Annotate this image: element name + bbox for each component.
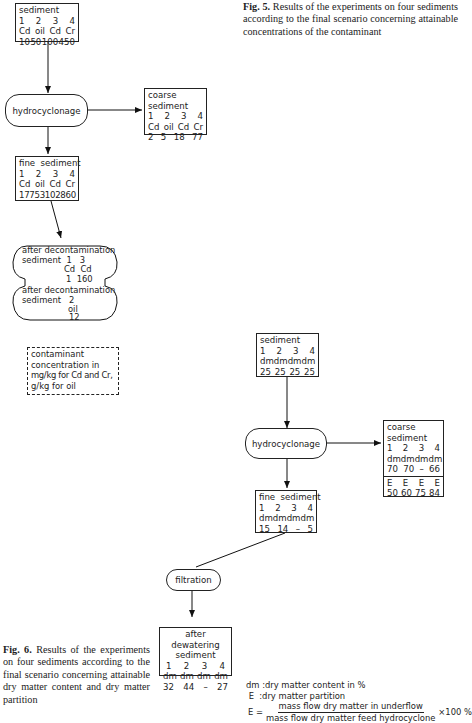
cell: dm — [163, 671, 177, 682]
decon-value: 12 — [22, 313, 115, 321]
cell: 32 — [163, 682, 174, 693]
box-title: sediment — [148, 101, 203, 112]
cell: 100 — [42, 37, 58, 48]
cell: E — [403, 478, 408, 489]
dry-matter-units: dm dm dm dm — [259, 513, 313, 524]
cell: Cd — [19, 179, 30, 190]
cell: 3 — [293, 346, 298, 357]
cell: 5 — [161, 132, 166, 143]
decon-values: 1 160 — [22, 275, 115, 285]
cell: dm — [214, 671, 228, 682]
cell: Cd — [19, 26, 30, 37]
dry-matter-units: dm dm dm dm — [387, 454, 440, 465]
cell: dm — [274, 356, 288, 367]
cell: oil — [35, 26, 45, 37]
fig6-caption: Fig. 6. Results of the experiments on fo… — [3, 644, 150, 706]
decon-label: sediment — [22, 295, 61, 305]
cell: 450 — [59, 37, 75, 48]
box-title: fine sediment — [259, 492, 313, 503]
cell: 4 — [70, 169, 75, 180]
fig6-dewatered-sediment-box: after dewatering sediment 1 2 3 4 dm dm … — [159, 627, 232, 676]
box-title: fine sediment — [19, 158, 75, 169]
sample-numbers: 1 2 3 4 — [19, 169, 75, 180]
cell: dm — [197, 671, 211, 682]
cell: 1 — [148, 111, 153, 122]
divider — [384, 476, 443, 477]
cell: E — [387, 478, 392, 489]
box-title: sediment — [260, 335, 315, 346]
process-label: filtration — [175, 575, 211, 585]
cell: 2 — [275, 503, 280, 514]
cell: 44 — [183, 682, 194, 693]
partition-values: 50 60 75 84 — [387, 488, 440, 499]
cell: 50 — [30, 37, 41, 48]
cell: 2 — [277, 346, 282, 357]
cell: dm — [401, 454, 415, 465]
fig6-fine-sediment-box: fine sediment 1 2 3 4 dm dm dm dm 15 14 … — [255, 490, 317, 533]
cell: 2860 — [55, 190, 76, 201]
cell: 17 — [19, 190, 29, 201]
cell: Cd — [148, 122, 159, 133]
cell: 3 — [202, 661, 207, 672]
process-label: hydrocyclonage — [252, 439, 320, 449]
contaminant-units: Cd oil Cd Cr — [19, 26, 75, 37]
cell: 3 — [291, 503, 296, 514]
formula-numerator: mass flow dry matter in underflow — [278, 701, 424, 713]
box-title: coarse — [148, 90, 203, 101]
cell: Cd — [49, 179, 60, 190]
dry-matter-values: 15 14 – 5 — [259, 524, 313, 535]
cell: 77 — [192, 132, 203, 143]
cell: 75 — [415, 488, 426, 499]
cell: oil — [164, 122, 174, 133]
cell: 25 — [304, 367, 315, 378]
cell: 75 — [29, 190, 39, 201]
fig5-coarse-sediment-box: coarse sediment 1 2 3 4 Cd oil Cd Cr 2 5… — [144, 88, 207, 135]
cell: dm — [273, 513, 287, 524]
cell: 25 — [260, 367, 271, 378]
cell: dm — [301, 356, 315, 367]
decon-label: sediment — [22, 255, 61, 265]
cell: 1 — [166, 661, 171, 672]
cell: 1 — [19, 16, 24, 27]
cell: 1 — [387, 443, 392, 454]
sample-numbers: 1 2 3 4 — [148, 111, 203, 122]
cell: 2 — [403, 443, 408, 454]
cell: 4 — [435, 443, 440, 454]
sample-numbers: 1 2 3 4 — [260, 346, 315, 357]
cell: 15 — [259, 524, 270, 535]
cell: 2 — [184, 661, 189, 672]
cell: 4 — [198, 111, 203, 122]
cell: 2 — [36, 16, 41, 27]
cell: 3 — [53, 16, 58, 27]
formula-lhs: E = — [248, 707, 263, 718]
cell: dm — [428, 454, 442, 465]
cell: 2 — [36, 169, 41, 180]
cell: 1 — [259, 503, 264, 514]
cell: Cd — [49, 26, 60, 37]
caption-text: Results of the experiments on four sedim… — [243, 1, 458, 37]
cell: dm — [288, 356, 302, 367]
sample-numbers: 1 2 3 4 — [19, 16, 75, 27]
formula-fraction: mass flow dry matter in underflow mass f… — [266, 701, 435, 723]
dry-matter-values: 32 44 – 27 — [163, 682, 228, 693]
fig6-sediment-box: sediment 1 2 3 4 dm dm dm dm 25 25 25 25 — [256, 333, 319, 377]
cell: dm — [287, 513, 301, 524]
decon-number: 2 — [69, 295, 74, 305]
box-title: sediment — [387, 433, 440, 444]
fig5-sediment-box: sediment 1 2 3 4 Cd oil Cd Cr 10 50 100 … — [15, 3, 79, 42]
box-title: after dewatering — [163, 629, 228, 650]
cell: oil — [35, 179, 45, 190]
legend-dm: dm :dry matter content in % — [246, 680, 472, 691]
fig6-coarse-sediment-box: coarse sediment 1 2 3 4 dm dm dm dm 70 7… — [383, 420, 444, 497]
cell: E — [435, 478, 440, 489]
caption-label: Fig. 6. — [3, 644, 32, 655]
cell: 10 — [19, 37, 30, 48]
dry-matter-units: dm dm dm dm — [260, 356, 315, 367]
dry-matter-units: dm dm dm dm — [163, 671, 228, 682]
sample-numbers: 1 2 3 4 — [163, 661, 228, 672]
sample-numbers: 1 2 3 4 — [387, 443, 440, 454]
cell: 2 — [148, 132, 153, 143]
cell: 70 — [403, 464, 414, 475]
cell: dm — [300, 513, 314, 524]
cell: Cr — [65, 26, 75, 37]
